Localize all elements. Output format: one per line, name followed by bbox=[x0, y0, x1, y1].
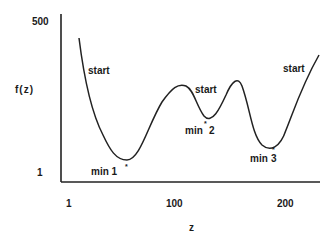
x-tick-200: 200 bbox=[277, 198, 294, 209]
annotation-start-2: start bbox=[195, 84, 217, 95]
y-tick-500: 500 bbox=[32, 16, 49, 27]
y-tick-1: 1 bbox=[37, 167, 43, 178]
annotation-min-3: min bbox=[250, 153, 268, 164]
x-axis-label: z bbox=[189, 222, 194, 233]
min-2-star: * bbox=[204, 120, 207, 127]
min-2-number: 2 bbox=[209, 125, 215, 136]
annotation-start-1: start bbox=[88, 65, 110, 76]
min-3-number: 3 bbox=[271, 153, 277, 164]
annotation-min-2: min bbox=[185, 125, 203, 136]
x-tick-100: 100 bbox=[166, 198, 183, 209]
min-1-star: * bbox=[125, 163, 128, 170]
x-tick-1: 1 bbox=[66, 198, 72, 209]
annotation-min-1: min 1 bbox=[91, 166, 117, 177]
annotation-start-3: start bbox=[283, 63, 305, 74]
y-axis-label: f(z) bbox=[15, 84, 34, 95]
min-3-star: * bbox=[272, 146, 275, 153]
function-curve bbox=[79, 38, 319, 160]
